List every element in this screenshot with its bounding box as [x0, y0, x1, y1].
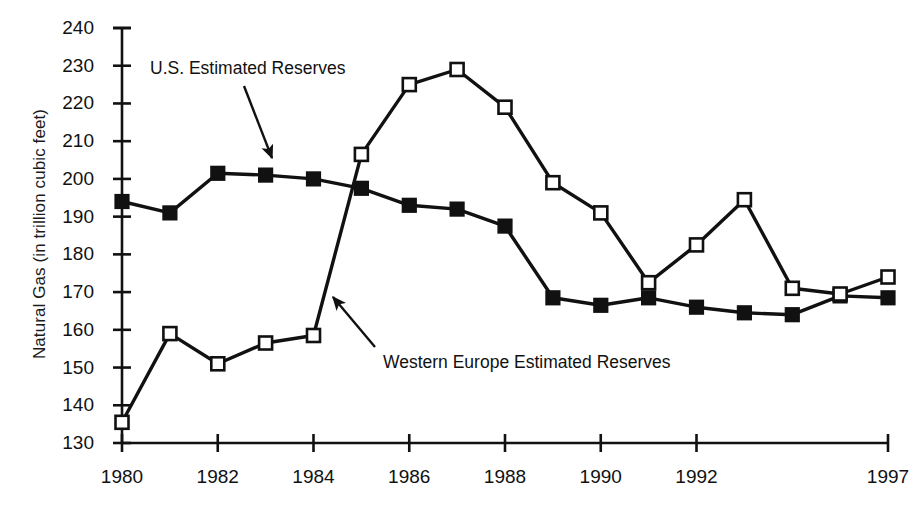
data-series — [116, 63, 895, 429]
data-point-marker — [116, 416, 129, 429]
data-point-marker — [259, 169, 272, 182]
data-point-marker — [499, 220, 512, 233]
data-point-marker — [594, 299, 607, 312]
data-point-marker — [307, 172, 320, 185]
data-point-marker — [786, 308, 799, 321]
data-point-marker — [403, 78, 416, 91]
data-point-marker — [211, 357, 224, 370]
data-point-marker — [690, 301, 703, 314]
data-point-marker — [211, 167, 224, 180]
data-point-marker — [882, 271, 895, 284]
data-point-marker — [882, 291, 895, 304]
series-us — [116, 167, 895, 321]
data-point-marker — [451, 63, 464, 76]
data-point-marker — [499, 101, 512, 114]
data-point-marker — [307, 329, 320, 342]
data-point-marker — [163, 327, 176, 340]
data-point-marker — [594, 206, 607, 219]
data-point-marker — [738, 306, 751, 319]
chart-figure: Natural Gas (in trillion cubic feet) 130… — [0, 0, 922, 517]
annotation-arrow — [244, 86, 272, 158]
data-point-marker — [546, 176, 559, 189]
data-point-marker — [738, 193, 751, 206]
data-point-marker — [834, 288, 847, 301]
series-western-europe — [116, 63, 895, 429]
data-point-marker — [690, 238, 703, 251]
data-point-marker — [355, 148, 368, 161]
data-point-marker — [451, 203, 464, 216]
data-point-marker — [116, 195, 129, 208]
series-line — [122, 70, 888, 423]
data-point-marker — [642, 276, 655, 289]
data-point-marker — [786, 282, 799, 295]
series-line — [122, 173, 888, 314]
data-point-marker — [546, 291, 559, 304]
annotation-arrows — [244, 86, 375, 347]
data-point-marker — [403, 199, 416, 212]
plot-area — [0, 0, 922, 517]
data-point-marker — [259, 337, 272, 350]
data-point-marker — [642, 291, 655, 304]
data-point-marker — [355, 182, 368, 195]
annotation-arrow — [333, 297, 375, 347]
axes — [113, 28, 888, 452]
data-point-marker — [163, 206, 176, 219]
